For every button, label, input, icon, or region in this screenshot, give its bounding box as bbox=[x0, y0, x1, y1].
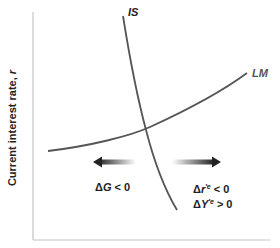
is-curve-label: IS bbox=[128, 6, 138, 18]
y-axis-label-text: Current interest rate, bbox=[6, 74, 18, 186]
lm-curve bbox=[48, 73, 247, 151]
delta-y-annotation: ΔY′e > 0 bbox=[193, 195, 232, 211]
right-arrow bbox=[172, 157, 221, 168]
left-arrow bbox=[93, 157, 136, 168]
y-axis-variable: r bbox=[6, 70, 18, 74]
y-axis-label: Current interest rate, r bbox=[6, 70, 18, 186]
delta-g-annotation: ΔG < 0 bbox=[95, 180, 130, 194]
delta-r-annotation: Δr′e < 0 bbox=[193, 180, 229, 196]
diagram-canvas bbox=[0, 0, 280, 248]
is-curve bbox=[123, 16, 177, 210]
lm-curve-label: LM bbox=[252, 67, 268, 79]
is-lm-diagram: Current interest rate, r IS LM ΔG < 0 Δr… bbox=[0, 0, 280, 248]
